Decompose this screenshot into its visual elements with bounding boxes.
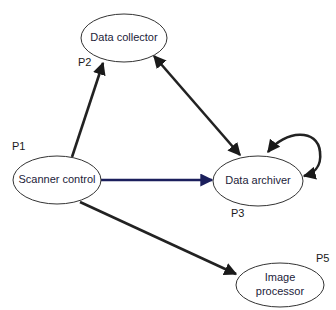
node-image-processor[interactable]: Image processor [236,263,324,307]
node-data-archiver[interactable]: Data archiver [213,156,303,206]
edge-collector-archiver-bidirectional [154,56,240,155]
edge-scanner-to-collector [72,63,103,157]
node-scanner-control[interactable]: Scanner control [13,156,101,204]
node-label-line-2: processor [256,285,305,297]
process-id-p5: P5 [316,252,329,264]
node-label: Data archiver [225,174,291,186]
process-id-p1: P1 [12,140,25,152]
node-label: Scanner control [18,173,95,185]
node-label-line-1: Image [265,271,296,283]
process-diagram: Data collector Scanner control Data arch… [0,0,336,310]
node-data-collector[interactable]: Data collector [81,14,167,62]
edge-scanner-to-imageproc [80,202,236,274]
process-id-p3: P3 [231,207,244,219]
process-id-p2: P2 [78,56,91,68]
node-label: Data collector [90,31,158,43]
